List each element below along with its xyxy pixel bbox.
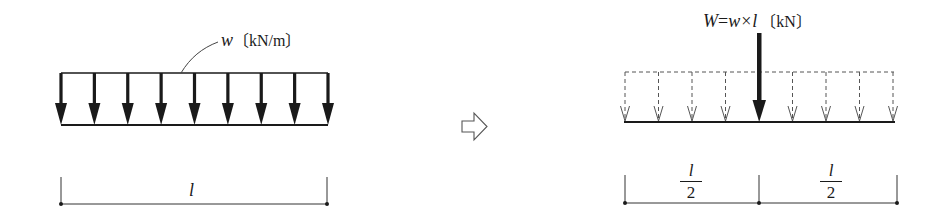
hollow-right-arrow-icon [462, 113, 487, 140]
down-arrow-icon [255, 73, 267, 125]
span-dimension-left [59, 177, 329, 206]
dim-dot [325, 202, 329, 206]
span-dimension-right [623, 175, 899, 205]
load-diagram-svg [0, 0, 947, 224]
down-arrow-icon [289, 73, 301, 125]
dim-dot [623, 201, 627, 205]
down-arrow-icon [55, 73, 67, 125]
down-arrow-icon [189, 73, 201, 125]
down-arrow-icon [155, 73, 167, 125]
dim-dot [895, 201, 899, 205]
dim-dot [757, 201, 761, 205]
dashed-down-arrow-icon [855, 72, 864, 121]
dashed-down-arrow-icon [688, 72, 697, 121]
down-arrow-icon [88, 73, 100, 125]
down-arrow-icon [322, 73, 334, 125]
leader-line [181, 42, 218, 73]
dashed-down-arrow-icon [721, 72, 730, 121]
dashed-down-arrow-icon [788, 72, 797, 121]
equivalent-load-group [621, 33, 898, 122]
dim-dot [59, 202, 63, 206]
distributed-load-group [55, 42, 334, 125]
point-load-arrow-icon [753, 33, 767, 122]
down-arrow-icon [222, 73, 234, 125]
diagram-canvas: w〔kN/m〕 l W=w×l〔kN〕 l 2 l 2 [0, 0, 947, 224]
dashed-down-arrow-icon [889, 72, 898, 121]
dashed-down-arrow-icon [654, 72, 663, 121]
down-arrow-icon [122, 73, 134, 125]
distributed-load-arrows [55, 73, 334, 125]
dashed-down-arrow-icon [822, 72, 831, 121]
dashed-down-arrow-icon [621, 72, 630, 121]
